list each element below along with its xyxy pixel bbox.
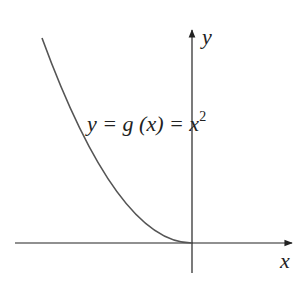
parabola-curve — [42, 38, 192, 243]
y-axis-label: y — [200, 24, 212, 49]
function-graph: y = g (x) = x2 y x — [0, 0, 307, 288]
x-axis-label: x — [279, 248, 290, 273]
function-label: y = g (x) = x2 — [85, 109, 206, 136]
